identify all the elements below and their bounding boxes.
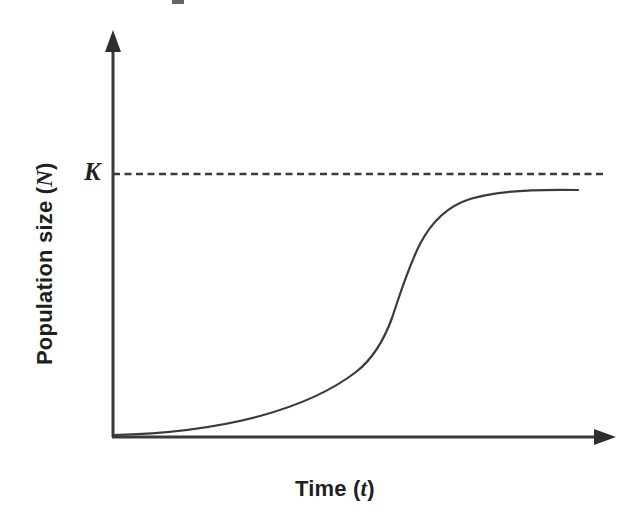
y-axis [105, 30, 121, 437]
y-axis-label: Population size (N) [32, 162, 58, 365]
logistic-growth-figure: K Population size (N) Time (t) [0, 0, 635, 525]
carrying-capacity-label: K [84, 158, 101, 186]
y-axis-arrowhead-icon [105, 30, 121, 52]
y-axis-variable-symbol: N [32, 170, 57, 187]
x-axis-label-close-paren: ) [367, 476, 375, 501]
y-axis-label-text: Population size ( [32, 187, 57, 365]
plot-canvas [0, 0, 635, 525]
logistic-growth-curve [113, 190, 578, 435]
y-axis-label-close-paren: ) [32, 162, 57, 170]
x-axis [112, 429, 616, 445]
x-axis-label: Time (t) [295, 476, 375, 502]
x-axis-arrowhead-icon [594, 429, 616, 445]
x-axis-label-text: Time ( [295, 476, 361, 501]
